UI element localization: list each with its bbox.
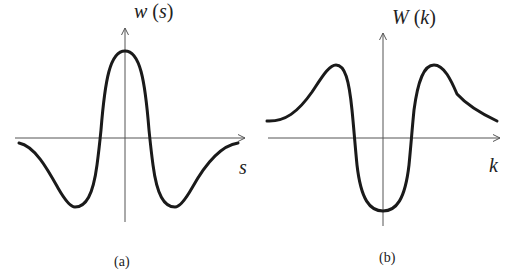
x-label-a: s bbox=[239, 156, 247, 178]
y-label-b: W (k) bbox=[392, 6, 436, 29]
figure-canvas: w (s) s (a) W (k) k (b) bbox=[0, 0, 505, 274]
caption-b: (b) bbox=[379, 250, 396, 266]
caption-a: (a) bbox=[114, 254, 130, 270]
x-label-b: k bbox=[489, 154, 499, 176]
panel-b: W (k) k (b) bbox=[267, 6, 500, 266]
curve-w-of-s bbox=[19, 51, 238, 207]
y-label-a: w (s) bbox=[134, 0, 173, 23]
panel-a: w (s) s (a) bbox=[15, 0, 247, 270]
